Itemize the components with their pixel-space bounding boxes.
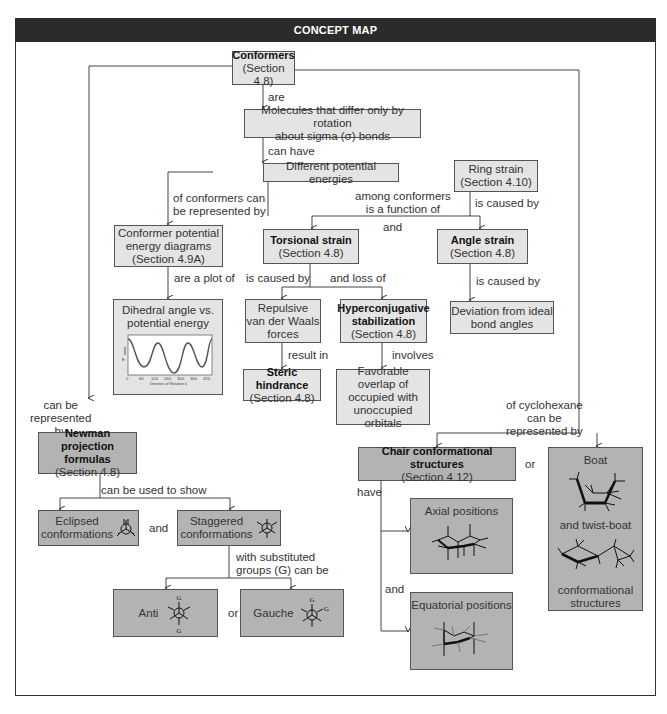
link-among-conformers: among conformers is a function of <box>355 190 451 216</box>
node-hyperconjugative: Hyperconjugative stabilization (Section … <box>340 299 427 343</box>
node-line: unoccupied <box>354 404 413 417</box>
x-tick: 60 <box>139 376 144 381</box>
node-line: structures <box>570 597 621 610</box>
node-section: (Section 4.9A) <box>132 253 205 266</box>
link-result-in: result in <box>288 349 328 362</box>
node-line: potential energy <box>127 317 209 330</box>
node-line: Conformer potential <box>118 227 219 240</box>
link-have: have <box>357 486 382 499</box>
node-favorable-overlap: Favorable overlap of occupied with unocc… <box>336 369 430 425</box>
link-or-2: or <box>228 607 238 620</box>
node-molecules: Molecules that differ only by rotation a… <box>244 109 421 138</box>
node-line: conformations <box>41 528 113 541</box>
node-section: (Section 4.8) <box>351 328 416 341</box>
node-section: (Section 4.8) <box>450 247 515 260</box>
node-text: Anti <box>139 607 159 620</box>
x-axis-label: Degrees of Rotation θ <box>150 382 187 386</box>
node-text: Axial positions <box>425 505 499 518</box>
node-section: (Section 4.8) <box>249 392 314 405</box>
link-of-cyclohexane: of cyclohexane can be represented by <box>506 399 583 438</box>
x-tick: 420 <box>203 376 211 381</box>
node-steric-hindrance: Steric hindrance (Section 4.8) <box>243 369 321 401</box>
node-text: Different potential energies <box>264 160 398 186</box>
node-line: bond angles <box>471 318 534 331</box>
link-of-conformers: of conformers can be represented by <box>173 192 266 218</box>
link-and-1: and <box>383 221 402 234</box>
g-label: G <box>309 596 314 604</box>
eclipsed-newman-icon <box>116 518 136 538</box>
node-pe-diagrams: Conformer potential energy diagrams (Sec… <box>114 225 223 267</box>
node-deviation: Deviation from ideal bond angles <box>450 301 554 334</box>
node-section: (Section 4.10) <box>460 176 532 189</box>
node-axial-positions: Axial positions <box>410 498 513 574</box>
node-energies: Different potential energies <box>263 163 399 182</box>
node-text: Gauche <box>253 607 293 620</box>
node-section: (Section 4.12) <box>401 471 473 484</box>
node-line: Favorable overlap of <box>337 365 429 391</box>
node-line: about sigma (σ) bonds <box>275 130 390 143</box>
node-title: Newman projection <box>39 427 136 453</box>
node-chair-structures: Chair conformational structures (Section… <box>358 447 516 481</box>
x-tick: 240 <box>164 376 172 381</box>
twist-boat-structure-icon <box>556 536 636 576</box>
staggered-newman-icon <box>256 517 278 539</box>
x-tick: 120 <box>151 376 159 381</box>
node-gauche: Gauche G G <box>240 589 344 637</box>
node-staggered: Staggered conformations <box>177 510 281 546</box>
node-title: formulas <box>64 453 110 466</box>
node-line: Staggered <box>190 515 243 528</box>
node-torsional-strain: Torsional strain (Section 4.8) <box>263 229 359 264</box>
link-or-1: or <box>525 458 535 471</box>
link-are-plot-of: are a plot of <box>174 272 235 285</box>
link-line: of cyclohexane <box>506 399 583 412</box>
x-tick: 0 <box>126 376 129 381</box>
link-and-2: and <box>149 522 168 535</box>
y-axis-label: E <box>122 357 125 362</box>
link-is-caused-by-tors: is caused by <box>246 272 310 285</box>
node-line: orbitals <box>364 417 401 430</box>
anti-newman-icon: G G <box>166 591 192 635</box>
node-line: Molecules that differ only by rotation <box>245 104 420 130</box>
link-line: groups (G) can be <box>236 564 329 577</box>
concept-map-header: CONCEPT MAP <box>15 18 656 42</box>
link-can-be-used: can be used to show <box>101 484 207 497</box>
link-is-caused-by-ring: is caused by <box>475 197 539 210</box>
link-line: of conformers can <box>173 192 266 205</box>
node-line: forces <box>267 328 298 341</box>
node-line: occupied with <box>348 391 418 404</box>
link-line: be represented by <box>173 205 266 218</box>
link-line: among conformers <box>355 190 451 203</box>
node-section: (Section 4.8) <box>278 247 343 260</box>
link-line: is a function of <box>355 203 451 216</box>
node-line: Repulsive <box>258 302 309 315</box>
node-title: Hyperconjugative <box>337 302 429 315</box>
energy-plot: E 0 60 120 240 300 360 420 Degrees of Ro… <box>122 333 214 385</box>
link-line: with substituted <box>236 551 329 564</box>
node-line: Boat <box>584 454 608 467</box>
node-newman-projection: Newman projection formulas (Section 4.8) <box>38 432 137 474</box>
link-involves: involves <box>392 349 434 362</box>
link-line: can be <box>506 412 583 425</box>
node-line: energy diagrams <box>126 240 212 253</box>
node-section: (Section 4.8) <box>55 466 120 479</box>
node-line: conformations <box>180 528 252 541</box>
chair-equatorial-icon <box>430 616 494 660</box>
node-line: conformational <box>558 584 633 597</box>
link-substituted: with substituted groups (G) can be <box>236 551 329 577</box>
node-line: Deviation from ideal <box>451 305 553 318</box>
node-title: Steric hindrance <box>244 366 320 392</box>
link-is-caused-by-angle: is caused by <box>476 275 540 288</box>
node-conformers: Conformers (Section 4.8) <box>232 51 295 85</box>
node-title: Conformers <box>232 49 294 62</box>
link-and-3: and <box>385 583 404 596</box>
g-label: G <box>177 594 182 602</box>
link-line: represented <box>30 412 91 425</box>
node-line: Dihedral angle vs. <box>122 304 214 317</box>
link-line: represented by <box>506 425 583 438</box>
node-text: Equatorial positions <box>411 599 511 612</box>
link-line: can be <box>30 399 91 412</box>
node-title: Ring strain <box>469 163 524 176</box>
node-boat-structures: Boat and twist-boat conformational struc… <box>548 447 643 611</box>
node-title: Chair conformational structures <box>359 445 515 471</box>
g-label: G <box>324 605 329 613</box>
